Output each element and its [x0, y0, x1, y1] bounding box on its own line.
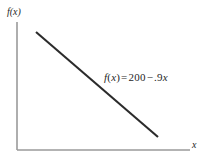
- equation-slope-variable: x: [163, 71, 168, 83]
- equation-slope-magnitude: .9: [154, 71, 163, 83]
- linear-function-chart: f(x) x f(x)=200−.9x: [0, 0, 208, 162]
- x-axis-label: x: [192, 140, 196, 150]
- equation-intercept: 200: [129, 71, 146, 83]
- equation-equals-sign: =: [120, 71, 128, 83]
- y-axis-label: f(x): [7, 7, 21, 17]
- equation-minus-sign: −: [146, 71, 154, 83]
- equation-annotation: f(x)=200−.9x: [104, 72, 168, 83]
- function-line: [36, 32, 158, 137]
